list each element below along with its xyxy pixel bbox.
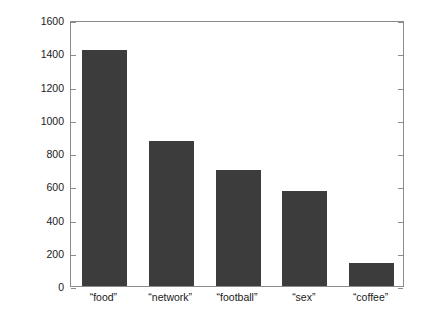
y-tick-label: 1200 [41,83,64,94]
bar-chart-figure: Millions of entries 02004006008001000120… [0,0,421,324]
y-tick-label: 200 [46,249,64,260]
y-tick-label: 1000 [41,116,64,127]
bar [216,170,261,286]
plot-area [70,21,404,287]
y-tick-mark [398,288,403,289]
y-tick-label: 400 [46,216,64,227]
y-tick-label: 800 [46,149,64,160]
y-tick-mark [71,288,76,289]
bar [349,263,394,286]
y-tick-label: 0 [58,282,64,293]
y-axis-title: Millions of entries [8,0,22,14]
x-tick-label: “coffee” [321,292,421,303]
bar [82,50,127,286]
y-tick-label: 600 [46,182,64,193]
y-axis-title-text: Millions of entries [8,0,22,14]
bar-series [71,22,403,286]
y-tick-label: 1600 [41,16,64,27]
bar [282,191,327,286]
y-tick-label: 1400 [41,49,64,60]
bar [149,141,194,286]
